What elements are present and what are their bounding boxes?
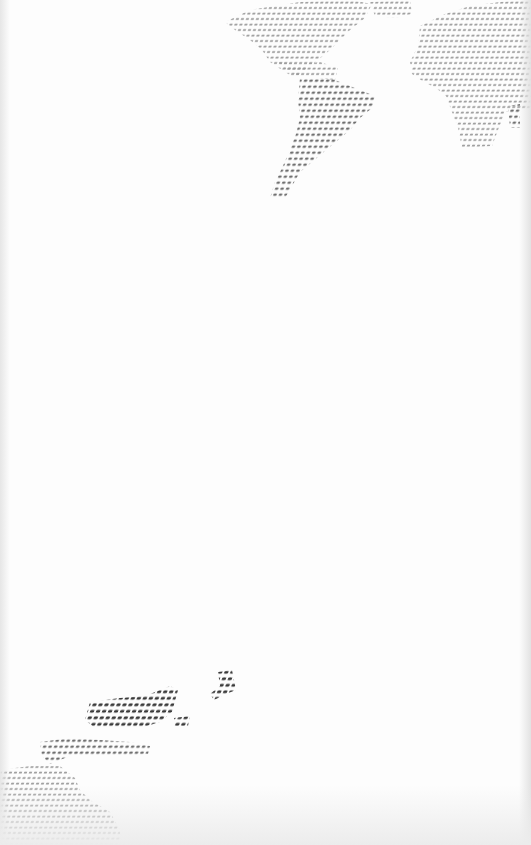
left-edge-shading [0,0,10,845]
region-indonesia [40,738,150,764]
region-south-america [270,78,375,198]
region-asia-southeast [85,686,178,728]
region-greenland [370,0,412,18]
right-edge-shading [519,0,531,845]
dotted-world-map [0,0,531,845]
continent-layer [0,0,531,845]
region-japan [210,670,236,700]
region-philippines [174,716,190,726]
wallpaper-background [0,0,531,845]
bottom-edge-shading [0,785,531,845]
region-central-america [278,62,338,80]
